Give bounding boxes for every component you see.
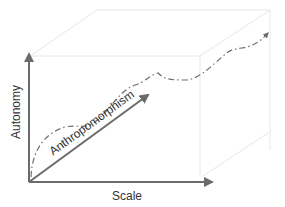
x-axis-label: Scale: [112, 189, 142, 203]
box-outline: [30, 10, 270, 177]
diagram-canvas: Autonomy Scale Anthropomorphism: [0, 0, 285, 207]
z-axis: [29, 95, 148, 182]
z-axis-label: Anthropomorphism: [47, 87, 137, 158]
y-axis-label: Autonomy: [9, 85, 23, 139]
